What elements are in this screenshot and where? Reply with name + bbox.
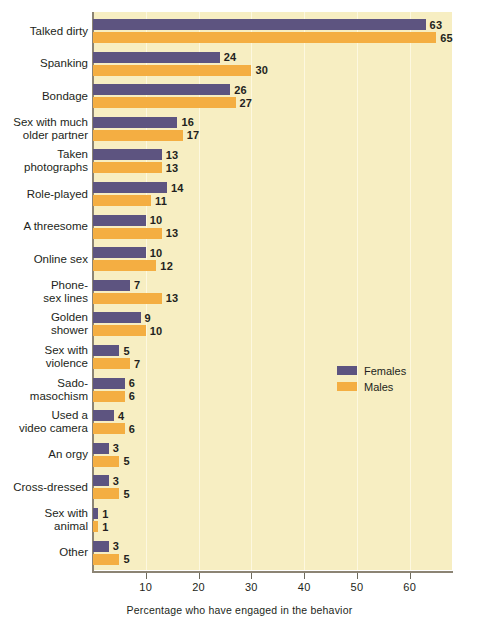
bar-row: 14 [93, 182, 479, 193]
bar-females [93, 52, 220, 63]
bar-group: 1012 [93, 247, 479, 271]
bar-row: 11 [93, 195, 479, 206]
bar-females [93, 149, 162, 160]
x-axis-tick [410, 573, 411, 579]
bar-males [93, 195, 151, 206]
bar-value-label: 3 [113, 475, 119, 487]
category-label: Bondage [0, 90, 88, 103]
bar-row: 30 [93, 65, 479, 76]
bar-males [93, 325, 146, 336]
bar-group: 35 [93, 541, 479, 565]
bar-row: 3 [93, 541, 479, 552]
bar-females [93, 215, 146, 226]
legend-label-males: Males [364, 381, 393, 393]
bar-value-label: 13 [166, 162, 179, 174]
x-axis-tick [199, 573, 200, 579]
bar-row: 5 [93, 488, 479, 499]
bar-value-label: 16 [181, 116, 194, 128]
bar-value-label: 3 [113, 540, 119, 552]
bar-value-label: 17 [187, 129, 200, 141]
bar-row: 3 [93, 443, 479, 454]
bar-group: 35 [93, 443, 479, 467]
bar-males [93, 32, 436, 43]
bar-row: 5 [93, 456, 479, 467]
category-label: Sado- masochism [0, 377, 88, 403]
bar-value-label: 7 [134, 279, 140, 291]
bar-value-label: 24 [224, 51, 237, 63]
bar-females [93, 443, 109, 454]
bar-value-label: 5 [123, 455, 129, 467]
bar-row: 3 [93, 475, 479, 486]
bar-row: 6 [93, 423, 479, 434]
bar-value-label: 11 [155, 195, 167, 207]
bar-value-label: 14 [171, 182, 184, 194]
bar-females [93, 410, 114, 421]
bar-row: 13 [93, 149, 479, 160]
bar-row: 5 [93, 345, 479, 356]
bar-females [93, 475, 109, 486]
bar-value-label: 26 [234, 84, 247, 96]
category-label: Spanking [0, 57, 88, 70]
bar-row: 10 [93, 247, 479, 258]
bar-males [93, 521, 98, 532]
category-label: Taken photographs [0, 148, 88, 174]
bar-value-label: 6 [129, 377, 135, 389]
bar-females [93, 247, 146, 258]
bar-females [93, 19, 426, 30]
bar-value-label: 30 [255, 64, 268, 76]
bar-value-label: 10 [150, 325, 163, 337]
bar-value-label: 6 [129, 423, 135, 435]
bar-females [93, 84, 230, 95]
bar-group: 1617 [93, 117, 479, 141]
category-label: Cross-dressed [0, 481, 88, 494]
bar-group: 1411 [93, 182, 479, 206]
category-label: Golden shower [0, 311, 88, 337]
bar-row: 13 [93, 162, 479, 173]
bar-males [93, 456, 119, 467]
bar-row: 6 [93, 378, 479, 389]
bar-group: 910 [93, 312, 479, 336]
bar-males [93, 97, 236, 108]
bar-group: 713 [93, 280, 479, 304]
bar-row: 1 [93, 521, 479, 532]
x-axis-tick [146, 573, 147, 579]
x-axis-tick-label: 10 [139, 581, 152, 593]
legend-swatch-females-icon [337, 366, 357, 375]
bar-group: 35 [93, 475, 479, 499]
category-label: Role-played [0, 188, 88, 201]
bar-value-label: 4 [118, 410, 124, 422]
bar-value-label: 5 [123, 553, 129, 565]
bar-males [93, 130, 183, 141]
bar-group: 46 [93, 410, 479, 434]
bar-group: 2430 [93, 52, 479, 76]
x-axis-tick [251, 573, 252, 579]
bar-group: 2627 [93, 84, 479, 108]
bar-value-label: 3 [113, 442, 119, 454]
category-label: Used a video camera [0, 409, 88, 435]
x-axis-tick-label: 60 [403, 581, 416, 593]
bar-row: 63 [93, 19, 479, 30]
category-label: Sex with much older partner [0, 116, 88, 142]
bar-row: 16 [93, 117, 479, 128]
bar-males [93, 65, 251, 76]
bar-value-label: 10 [150, 214, 163, 226]
bar-row: 7 [93, 358, 479, 369]
bar-males [93, 358, 130, 369]
bar-group: 66 [93, 378, 479, 402]
bar-row: 17 [93, 130, 479, 141]
legend-swatch-males-icon [337, 382, 357, 391]
bar-females [93, 345, 119, 356]
x-axis-tick [357, 573, 358, 579]
legend-item-females: Females [337, 364, 406, 377]
x-axis-title: Percentage who have engaged in the behav… [0, 604, 479, 616]
bar-males [93, 488, 119, 499]
bar-females [93, 117, 177, 128]
legend-item-males: Males [337, 380, 406, 393]
bar-row: 10 [93, 325, 479, 336]
category-label: Online sex [0, 253, 88, 266]
bar-females [93, 378, 125, 389]
bar-chart-figure: 6365243026271617131314111013101271391057… [0, 0, 479, 633]
bar-value-label: 13 [166, 227, 179, 239]
x-axis-tick-label: 20 [192, 581, 205, 593]
x-axis-tick-label: 30 [245, 581, 258, 593]
